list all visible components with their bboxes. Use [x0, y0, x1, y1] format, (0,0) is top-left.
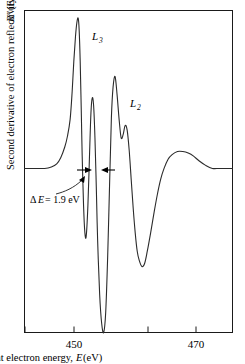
x-axis-title: Incident electron energy, E (eV)	[0, 352, 103, 364]
plot-svg: 450 470 Incident electron energy, E (eV)…	[0, 0, 245, 364]
peak-label-l2-subscript: 2	[137, 103, 141, 112]
x-tick-label-450: 450	[66, 338, 83, 350]
delta-e-annotation-value: = 1.9 eV	[45, 194, 81, 205]
plot-frame	[25, 11, 233, 333]
y-axis-title-prefix: Second derivative of electron reflectivi…	[5, 0, 16, 170]
peak-label-l2: L 2	[129, 97, 141, 112]
delta-e-annotation-delta: Δ	[30, 194, 37, 205]
y-axis-title: Second derivative of electron reflectivi…	[5, 0, 17, 170]
peak-label-l3-subscript: 3	[98, 36, 103, 45]
y-axis-title-prime: ″	[5, 11, 16, 15]
x-axis-title-units: (eV)	[83, 352, 103, 364]
delta-e-annotation: Δ E = 1.9 eV	[30, 194, 81, 205]
x-axis-title-symbol: E	[75, 352, 83, 363]
peak-label-l2-letter: L	[129, 97, 136, 109]
y-axis-title-symbol: R	[5, 15, 16, 23]
x-axis-ticks	[25, 327, 196, 333]
x-axis-title-prefix: Incident electron energy,	[0, 352, 73, 363]
peak-label-l3: L 3	[91, 30, 103, 45]
data-curve	[25, 18, 233, 333]
peak-label-l3-letter: L	[91, 30, 98, 42]
delta-e-leader-curve	[56, 180, 82, 194]
figure-container: 450 470 Incident electron energy, E (eV)…	[0, 0, 245, 364]
delta-e-annotation-symbol: E	[37, 194, 44, 205]
y-axis-title-arg: (E)	[5, 0, 17, 10]
delta-e-leader	[56, 176, 85, 194]
x-tick-label-470: 470	[188, 338, 205, 350]
delta-e-arrow-right-head	[101, 167, 108, 173]
